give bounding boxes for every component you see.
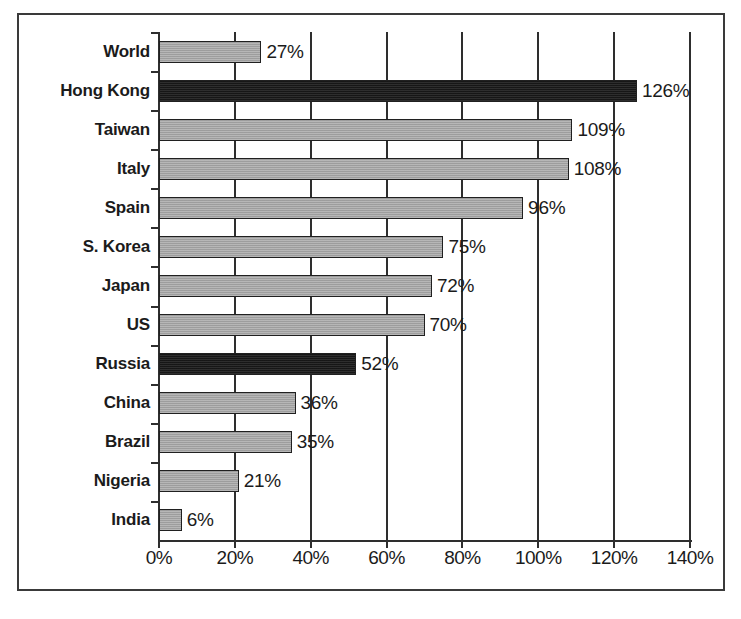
category-label-spain: Spain — [105, 198, 150, 218]
bar-row: Japan72% — [159, 266, 690, 305]
y-axis-tick — [151, 501, 159, 503]
y-axis-tick — [151, 188, 159, 190]
bar-row: US70% — [159, 306, 690, 345]
bar-row: Nigeria21% — [159, 462, 690, 501]
bar-india — [159, 509, 182, 531]
bar-value-label: 75% — [448, 236, 485, 258]
bar-value-label: 72% — [437, 275, 474, 297]
bar-spain — [159, 197, 523, 219]
category-label-s-korea: S. Korea — [83, 237, 150, 257]
bar-value-label: 109% — [577, 119, 624, 141]
y-axis-tick — [151, 32, 159, 34]
bar-value-label: 126% — [642, 80, 689, 102]
bar-value-label: 6% — [187, 509, 214, 531]
bar-china — [159, 392, 296, 414]
category-label-brazil: Brazil — [105, 432, 150, 452]
bar-value-label: 52% — [361, 353, 398, 375]
y-axis-tick — [151, 71, 159, 73]
bar-value-label: 96% — [528, 197, 565, 219]
category-label-italy: Italy — [117, 159, 150, 179]
plot-area: World27%Hong Kong126%Taiwan109%Italy108%… — [159, 32, 690, 540]
bar-row: Italy108% — [159, 149, 690, 188]
bar-value-label: 27% — [266, 41, 303, 63]
bar-s-korea — [159, 236, 443, 258]
x-axis-tick-label-120: 120% — [591, 547, 638, 569]
category-label-japan: Japan — [102, 276, 150, 296]
x-axis-line — [159, 540, 692, 542]
category-label-china: China — [104, 393, 150, 413]
bar-brazil — [159, 431, 292, 453]
bar-taiwan — [159, 119, 572, 141]
y-axis-tick — [151, 345, 159, 347]
bar-row: S. Korea75% — [159, 227, 690, 266]
bar-row: India6% — [159, 501, 690, 540]
bar-row: Hong Kong126% — [159, 71, 690, 110]
bar-world — [159, 41, 261, 63]
bar-russia — [159, 353, 356, 375]
bar-japan — [159, 275, 432, 297]
y-axis-tick — [151, 266, 159, 268]
bar-chart: World27%Hong Kong126%Taiwan109%Italy108%… — [19, 15, 723, 589]
bar-row: Brazil35% — [159, 423, 690, 462]
category-label-us: US — [127, 315, 150, 335]
y-axis-tick — [151, 306, 159, 308]
bar-value-label: 36% — [301, 392, 338, 414]
category-label-russia: Russia — [95, 354, 150, 374]
bar-value-label: 70% — [430, 314, 467, 336]
bar-italy — [159, 158, 569, 180]
category-label-india: India — [111, 510, 150, 530]
y-axis-tick — [151, 110, 159, 112]
category-label-nigeria: Nigeria — [94, 471, 150, 491]
bar-row: China36% — [159, 384, 690, 423]
category-label-taiwan: Taiwan — [95, 120, 150, 140]
bar-value-label: 21% — [244, 470, 281, 492]
x-axis-tick-label-100: 100% — [515, 547, 562, 569]
bar-row: Spain96% — [159, 188, 690, 227]
figure-frame: World27%Hong Kong126%Taiwan109%Italy108%… — [17, 13, 725, 591]
bar-value-label: 108% — [574, 158, 621, 180]
bar-hong-kong — [159, 80, 637, 102]
y-axis-tick — [151, 149, 159, 151]
bar-row: Russia52% — [159, 345, 690, 384]
x-axis-tick-label-140: 140% — [667, 547, 714, 569]
x-axis-tick-label-60: 60% — [368, 547, 405, 569]
category-label-world: World — [103, 42, 150, 62]
bar-value-label: 35% — [297, 431, 334, 453]
y-axis-tick — [151, 462, 159, 464]
x-axis-tick-label-0: 0% — [146, 547, 172, 569]
y-axis-tick — [151, 423, 159, 425]
bar-row: World27% — [159, 32, 690, 71]
bar-us — [159, 314, 425, 336]
y-axis-tick — [151, 227, 159, 229]
category-label-hong-kong: Hong Kong — [60, 81, 150, 101]
y-axis-tick — [151, 384, 159, 386]
x-axis-tick-label-40: 40% — [292, 547, 329, 569]
bar-row: Taiwan109% — [159, 110, 690, 149]
x-axis-tick-label-20: 20% — [217, 547, 254, 569]
x-axis-tick-label-80: 80% — [444, 547, 481, 569]
bar-nigeria — [159, 470, 239, 492]
